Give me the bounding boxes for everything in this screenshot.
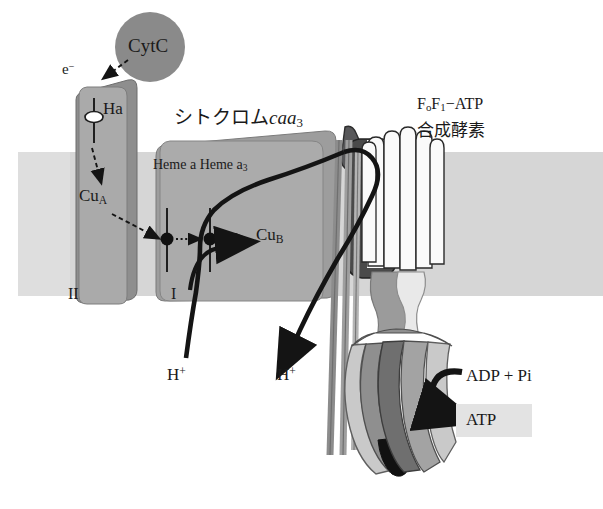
heme-a-text: Heme a [153,157,196,172]
f-1-symbol: F [431,95,440,112]
cytochrome-caa3-katakana: シトクロム [174,106,269,128]
label-heme-a-and-a3: Heme a Heme a3 [153,158,248,174]
electron-charge: − [69,61,75,72]
proton-in-charge: + [179,365,186,378]
cytochrome-caa3-italic: caa [269,107,296,128]
cu-b-symbol: Cu [256,225,276,244]
cu-a-subscript: A [99,194,107,207]
c-ring-cylinders [362,127,444,270]
cytochrome-caa3-subscript: 3 [296,115,302,130]
central-stalk [370,272,425,332]
label-atp: ATP [466,411,496,428]
diagram-canvas: CytC e− Ha CuA II シトクロムcaa3 Heme a Heme … [0,0,603,509]
f-o-symbol: F [417,95,426,112]
label-cu-a: CuA [79,187,107,206]
proton-out-charge: + [289,365,296,378]
electron-symbol: e [62,61,69,77]
label-electron: e− [62,62,74,77]
label-atp-synthase-line2: 合成酵素 [417,122,485,139]
proton-in-symbol: H [167,365,179,384]
heme-a3-subscript: 3 [243,163,248,173]
f1-head [345,329,456,476]
label-adp-pi: ADP + Pi [466,367,532,384]
label-cytochrome-c: CytC [128,36,168,55]
atp-suffix: −ATP [446,95,483,112]
label-subunit-I: I [171,286,176,302]
heme-a3-text: Heme a [200,157,243,172]
label-proton-outside: H+ [277,366,296,383]
label-cytochrome-caa3: シトクロムcaa3 [174,108,303,130]
proton-out-symbol: H [277,365,289,384]
label-atp-synthase-line1: FoF1−ATP [417,96,483,113]
cu-b-subscript: B [276,233,284,246]
cu-a-symbol: Cu [79,186,99,205]
label-subunit-II: II [68,286,79,302]
label-cu-b: CuB [256,226,284,245]
label-heme-a-subunit2: Ha [103,100,123,117]
label-proton-inside: H+ [167,366,186,383]
